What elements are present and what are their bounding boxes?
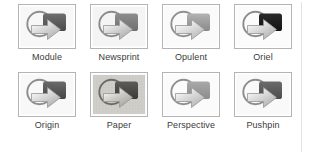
theme-thumbnail-frame[interactable]: [90, 72, 148, 117]
theme-gallery-grid: ModuleNewsprintOpulentOrielOriginPaperPe…: [0, 4, 300, 140]
theme-thumbnail-frame[interactable]: [18, 72, 76, 117]
theme-label: Perspective: [167, 120, 215, 131]
theme-thumbnail-icon: [237, 7, 289, 46]
theme-label: Opulent: [175, 52, 207, 63]
theme-item-origin[interactable]: Origin: [11, 72, 83, 140]
theme-label: Oriel: [253, 52, 273, 63]
theme-thumbnail-icon: [165, 7, 217, 46]
theme-thumbnail-icon: [93, 75, 145, 114]
theme-gallery: ModuleNewsprintOpulentOrielOriginPaperPe…: [0, 0, 309, 154]
theme-label: Newsprint: [99, 52, 140, 63]
theme-label: Pushpin: [246, 120, 279, 131]
theme-label: Module: [32, 52, 62, 63]
theme-thumbnail-frame[interactable]: [234, 72, 292, 117]
theme-thumbnail-frame[interactable]: [162, 72, 220, 117]
theme-item-opulent[interactable]: Opulent: [155, 4, 227, 72]
theme-label: Origin: [35, 120, 60, 131]
theme-thumbnail-icon: [165, 75, 217, 114]
theme-item-newsprint[interactable]: Newsprint: [83, 4, 155, 72]
theme-thumbnail-frame[interactable]: [90, 4, 148, 49]
theme-thumbnail-frame[interactable]: [234, 4, 292, 49]
theme-label: Paper: [107, 120, 132, 131]
theme-thumbnail-frame[interactable]: [18, 4, 76, 49]
theme-thumbnail-frame[interactable]: [162, 4, 220, 49]
theme-thumbnail-icon: [237, 75, 289, 114]
theme-thumbnail-icon: [93, 7, 145, 46]
theme-thumbnail-icon: [21, 7, 73, 46]
theme-item-perspective[interactable]: Perspective: [155, 72, 227, 140]
theme-item-oriel[interactable]: Oriel: [227, 4, 299, 72]
scroll-gutter[interactable]: [302, 0, 309, 154]
theme-thumbnail-icon: [21, 75, 73, 114]
theme-item-module[interactable]: Module: [11, 4, 83, 72]
theme-item-paper[interactable]: Paper: [83, 72, 155, 140]
theme-item-pushpin[interactable]: Pushpin: [227, 72, 299, 140]
